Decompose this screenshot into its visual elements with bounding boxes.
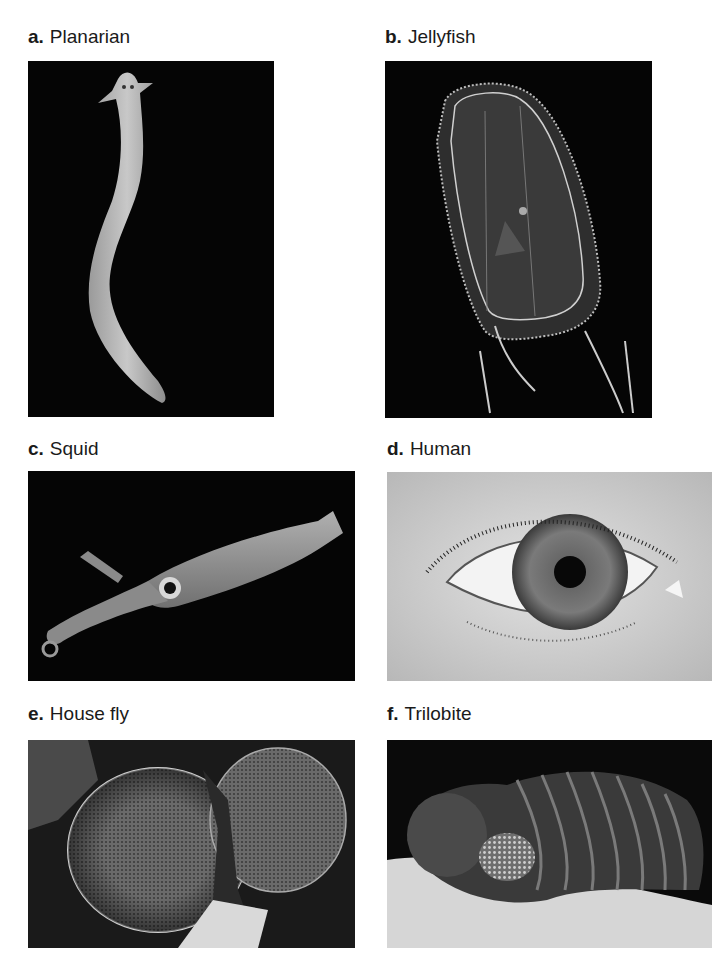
- panel-a-letter: a.: [28, 26, 44, 47]
- panel-d-title: Human: [410, 438, 471, 459]
- panel-d-label: d.Human: [387, 438, 471, 460]
- panel-c-title: Squid: [50, 438, 99, 459]
- panel-e-title: House fly: [50, 703, 129, 724]
- jellyfish-photo: [385, 61, 652, 418]
- house-fly-photo: [28, 740, 355, 948]
- house-fly-image: [28, 740, 355, 948]
- planarian-image: [28, 61, 274, 417]
- trilobite-photo: [387, 740, 712, 948]
- human-eye-photo: [387, 472, 712, 681]
- panel-c-letter: c.: [28, 438, 44, 459]
- panel-e-letter: e.: [28, 703, 44, 724]
- panel-f-title: Trilobite: [405, 703, 472, 724]
- jellyfish-image: [385, 61, 652, 418]
- panel-a-title: Planarian: [50, 26, 130, 47]
- panel-b-letter: b.: [385, 26, 402, 47]
- panel-c-label: c.Squid: [28, 438, 98, 460]
- squid-image: [28, 471, 355, 681]
- panel-b-title: Jellyfish: [408, 26, 476, 47]
- panel-f-letter: f.: [387, 703, 399, 724]
- panel-d-letter: d.: [387, 438, 404, 459]
- human-eye-image: [387, 472, 712, 681]
- panel-a-label: a.Planarian: [28, 26, 130, 48]
- panel-f-label: f.Trilobite: [387, 703, 471, 725]
- squid-photo: [28, 471, 355, 681]
- planarian-photo: [28, 61, 274, 417]
- panel-e-label: e.House fly: [28, 703, 129, 725]
- panel-b-label: b.Jellyfish: [385, 26, 475, 48]
- trilobite-image: [387, 740, 712, 948]
